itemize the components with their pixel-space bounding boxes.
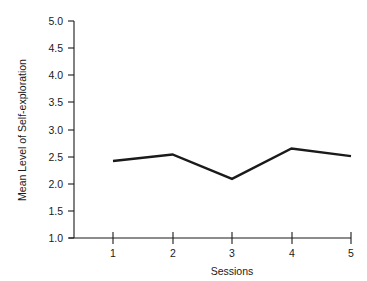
y-tick-label: 3.0 <box>48 124 63 136</box>
y-tick-label: 2.5 <box>48 151 63 163</box>
y-tick-label: 3.5 <box>48 96 63 108</box>
x-tick-label: 3 <box>229 247 235 259</box>
data-series-line <box>113 148 351 178</box>
x-tick-label: 1 <box>110 247 116 259</box>
y-tick-label: 4.5 <box>48 42 63 54</box>
y-tick-label: 5.0 <box>48 15 63 27</box>
y-tick-label: 1.0 <box>48 232 63 244</box>
y-tick-label: 4.0 <box>48 69 63 81</box>
y-tick-label: 1.5 <box>48 205 63 217</box>
x-axis-tick-labels: 1 2 3 4 5 <box>110 247 354 259</box>
chart-figure: 5.0 4.5 4.0 3.5 3.0 2.5 2.0 1.5 1.0 1 2 … <box>0 0 367 281</box>
y-axis-tick-labels: 5.0 4.5 4.0 3.5 3.0 2.5 2.0 1.5 1.0 <box>48 15 63 244</box>
x-tick-label: 4 <box>289 247 295 259</box>
x-tick-label: 2 <box>170 247 176 259</box>
x-tick-label: 5 <box>348 247 354 259</box>
x-axis-title: Sessions <box>211 265 254 277</box>
y-tick-label: 2.0 <box>48 178 63 190</box>
line-chart: 5.0 4.5 4.0 3.5 3.0 2.5 2.0 1.5 1.0 1 2 … <box>0 0 367 281</box>
y-axis-ticks <box>68 21 74 238</box>
y-axis-title: Mean Level of Self-exploration <box>16 59 28 201</box>
